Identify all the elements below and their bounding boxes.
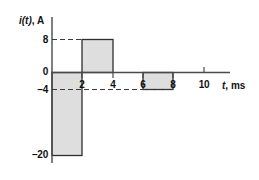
x-axis-title-unit: , ms [225,80,245,91]
y-tick-label-8: 8 [26,35,48,45]
x-tick-label-6: 6 [136,80,150,90]
y-tick-label-minus20: –20 [16,150,48,160]
y-axis-title: i(t), A [19,16,44,26]
y-tick-label-0: 0 [26,67,48,77]
x-tick-label-8: 8 [166,80,180,90]
x-tick-label-4: 4 [106,80,120,90]
x-tick-label-2: 2 [75,80,89,90]
y-axis-title-unit: , A [32,15,44,26]
pulse-bar-2-4ms [82,40,113,73]
y-axis-title-symbol: i(t) [19,15,32,26]
y-tick-label-minus4: –4 [22,85,48,95]
x-axis-title: t, ms [222,81,245,91]
current-waveform-figure: i(t), A t, ms 8 0 –4 –20 2 4 6 8 10 [0,0,259,180]
x-tick-label-10: 10 [195,80,213,90]
